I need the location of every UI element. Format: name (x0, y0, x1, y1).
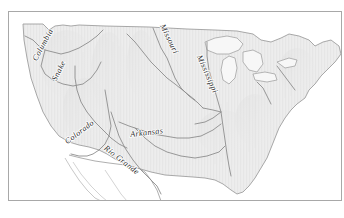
colorado-lower (71, 150, 99, 156)
us-landmass (23, 24, 341, 194)
map-frame: Columbia Snake Missouri Mississippi Colo… (8, 11, 342, 201)
lake-erie (253, 72, 277, 82)
map-figure: Columbia Snake Missouri Mississippi Colo… (0, 0, 344, 218)
us-rivers-map: Columbia Snake Missouri Mississippi Colo… (9, 12, 342, 201)
